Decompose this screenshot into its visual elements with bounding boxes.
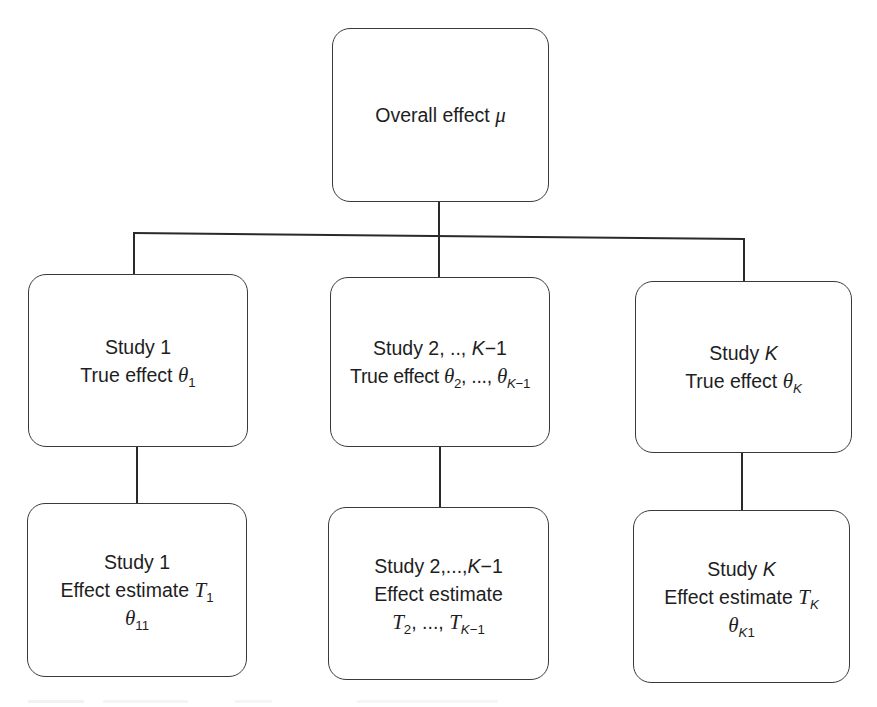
t-symbol: T (194, 578, 206, 602)
node-subtitle: Effect estimate T1 (60, 576, 213, 604)
mu-symbol: μ (495, 103, 506, 127)
subscript: 11 (135, 618, 149, 633)
theta-symbol: θ (125, 606, 135, 630)
node-subtitle: True effect θ2, ..., θK−1 (350, 362, 530, 390)
subscript-suffix: −1 (515, 376, 530, 391)
node-study-middle-effect-estimate: Study 2,...,K−1 Effect estimate T2, ...,… (328, 507, 549, 680)
k-variable: K (810, 596, 819, 611)
subscript: K−1 (507, 376, 530, 391)
label-text: True effect (80, 364, 178, 386)
theta-symbol: θ (178, 363, 188, 387)
node-line3: θ11 (125, 604, 149, 632)
label-text: True effect (350, 365, 444, 387)
node-title: Study K (707, 555, 775, 583)
node-subtitle: Effect estimate (374, 580, 503, 608)
label-text: Study (707, 558, 762, 580)
node-study-middle-true-effect: Study 2, .., K−1 True effect θ2, ..., θK… (330, 277, 550, 447)
t-symbol: T (798, 585, 810, 609)
node-title: Study 2,...,K−1 (374, 552, 502, 580)
label-suffix: −1 (481, 555, 503, 577)
k-variable: K (763, 558, 776, 580)
subscript: K (810, 596, 819, 611)
k-variable: K (467, 555, 480, 577)
label-text: Study 2, .., (373, 337, 472, 359)
k-variable: K (765, 342, 778, 364)
separator: , ..., (411, 611, 449, 633)
node-subtitle: True effect θ1 (80, 361, 195, 389)
separator: , ..., (461, 365, 497, 387)
node-study-k-effect-estimate: Study K Effect estimate TK θK1 (633, 510, 850, 683)
k-variable: K (472, 337, 485, 359)
label-suffix: −1 (485, 337, 507, 359)
theta-symbol: θ (783, 369, 793, 393)
node-study1-effect-estimate: Study 1 Effect estimate T1 θ11 (27, 503, 247, 677)
t-symbol: T (449, 610, 461, 634)
label-text: Study 2,..., (374, 555, 467, 577)
label-text: True effect (685, 370, 783, 392)
subscript: 2 (454, 376, 461, 391)
theta-symbol: θ (728, 613, 738, 637)
node-overall-effect: Overall effect μ (332, 28, 549, 202)
node-line3: T2, ..., TK−1 (392, 608, 485, 636)
node-subtitle: Effect estimate TK (664, 583, 819, 611)
theta-symbol: θ (444, 364, 454, 388)
node-study-k-true-effect: Study K True effect θK (635, 281, 852, 453)
t-symbol: T (392, 610, 404, 634)
subscript: K−1 (461, 621, 485, 636)
node-title: Study 1 (104, 548, 170, 576)
subscript: K1 (739, 624, 755, 639)
subscript: K (793, 381, 802, 396)
label-text: Study (709, 342, 764, 364)
subscript: 1 (188, 374, 195, 389)
node-title: Study K (709, 339, 777, 367)
label-text: Overall effect (375, 104, 495, 126)
k-variable: K (793, 381, 802, 396)
node-subtitle: True effect θK (685, 367, 802, 395)
node-study1-true-effect: Study 1 True effect θ1 (28, 274, 248, 447)
label-text: Effect estimate (664, 586, 798, 608)
cropped-caption-remnant (28, 700, 498, 703)
subscript: 1 (206, 590, 213, 605)
k-variable: K (461, 621, 470, 636)
subscript-suffix: 1 (747, 624, 754, 639)
node-title: Study 1 (105, 333, 171, 361)
node-line3: θK1 (728, 611, 755, 639)
node-label: Overall effect μ (375, 101, 506, 129)
subscript-suffix: −1 (470, 621, 485, 636)
label-text: Effect estimate (60, 579, 194, 601)
node-title: Study 2, .., K−1 (373, 334, 507, 362)
theta-symbol: θ (497, 364, 507, 388)
